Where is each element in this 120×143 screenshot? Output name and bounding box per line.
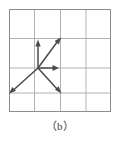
figure-caption: （b）: [0, 119, 120, 133]
figure-panel-b: （b）: [0, 0, 120, 143]
vector-grid-diagram: [0, 0, 120, 120]
grid-background: [9, 9, 111, 112]
